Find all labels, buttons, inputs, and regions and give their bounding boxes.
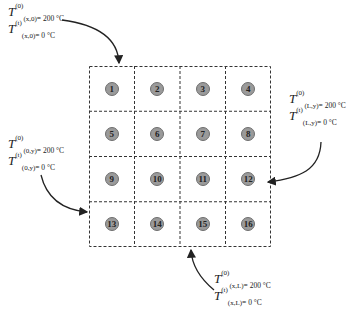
line-initial-temp: T(0)(0,y)= 200 °C [8, 139, 64, 150]
line-boundary-temp: T(t)(x,L)= 0 °C [214, 289, 271, 302]
line-initial-temp: T(0)(x,0)= 200 °C [8, 7, 64, 18]
label-left-boundary: T(0)(0,y)= 200 °C T(t)(0,y)= 0 °C [8, 137, 64, 167]
line-initial-temp: T(0)(L,y)= 200 °C [289, 94, 346, 105]
label-top-boundary: T(0)(x,0)= 200 °C T(t)(x,0)= 0 °C [8, 5, 64, 35]
arrow-left-to-node-13 [41, 175, 87, 212]
arrow-right-to-node-12 [268, 142, 321, 182]
line-boundary-temp: T(t)(x,0)= 0 °C [8, 22, 64, 35]
label-bottom-boundary: T(0)(x,L)= 200 °C T(t)(x,L)= 0 °C [214, 272, 271, 302]
line-initial-temp: T(0)(x,L)= 200 °C [214, 274, 271, 285]
arrow-bottom-to-node-15 [191, 250, 214, 290]
line-boundary-temp: T(t)(0,y)= 0 °C [8, 154, 64, 167]
label-right-boundary: T(0)(L,y)= 200 °C T(t)(L,y)= 0 °C [289, 92, 346, 122]
arrow-top-to-node-1 [62, 20, 119, 63]
line-boundary-temp: T(t)(L,y)= 0 °C [289, 109, 346, 122]
